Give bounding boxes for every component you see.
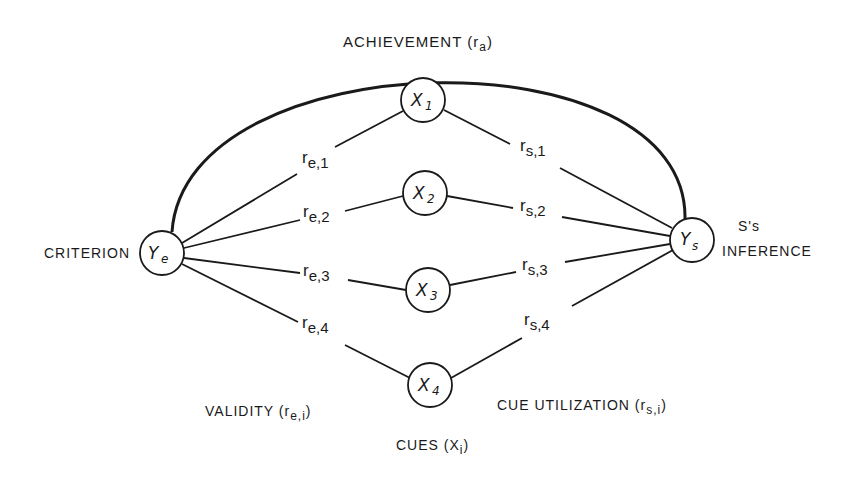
cues-label: CUES (Xi) (396, 437, 469, 457)
achievement-label: ACHIEVEMENT (ra) (343, 33, 493, 54)
validity-edge-label-1: re,1 (302, 148, 329, 171)
utilization-edge-label-3: rs,3 (522, 255, 548, 278)
cue-node-3: X 3 (406, 268, 450, 312)
utilization-edge-label-1: rs,1 (520, 136, 546, 159)
edge-sub: s,3 (528, 261, 548, 278)
edge-sub: e,4 (308, 319, 329, 336)
inference-label-2: INFERENCE (722, 243, 812, 259)
achievement-close: ) (487, 33, 493, 50)
lens-model-diagram: Y e Y s X 1 X 2 X 3 X 4 (0, 0, 856, 480)
validity-sub: e,i (290, 409, 306, 423)
cue-node-3-sub: 3 (430, 289, 438, 303)
criterion-label: CRITERION (44, 245, 130, 261)
criterion-node-sub: e (161, 252, 168, 266)
cue-node-3-main: X (415, 280, 428, 300)
cue-node-2-sub: 2 (427, 192, 435, 206)
cue-node-4-main: X (417, 375, 430, 395)
edge-sub: e,1 (308, 154, 329, 171)
cue-node-1-sub: 1 (425, 99, 433, 113)
edge-sub: s,2 (526, 202, 546, 219)
validity-edge-label-4: re,4 (302, 313, 329, 336)
validity-edge-label-2: re,2 (303, 202, 330, 225)
cue-utilization-close: ) (661, 397, 667, 413)
criterion-node: Y e (140, 231, 184, 275)
criterion-node-main: Y (148, 243, 160, 263)
cues-text: CUES (X (396, 437, 460, 453)
utilization-edge-label-4: rs,4 (524, 310, 550, 333)
cue-utilization-text: CUE UTILIZATION (r (497, 397, 646, 413)
validity-text: VALIDITY (r (205, 403, 290, 419)
validity-edge-label-3: re,3 (303, 261, 330, 284)
achievement-text: ACHIEVEMENT (343, 33, 462, 50)
cue-node-2: X 2 (403, 171, 447, 215)
edge-sub: s,4 (530, 316, 550, 333)
validity-close: ) (306, 403, 312, 419)
cue-node-1-main: X (410, 90, 423, 110)
achievement-sub: a (479, 40, 487, 54)
inference-label-1: S's (738, 218, 760, 234)
cue-utilization-label: CUE UTILIZATION (rs,i) (497, 397, 667, 417)
edge-sub: s,1 (526, 142, 546, 159)
edge-sub: e,2 (309, 208, 330, 225)
validity-label: VALIDITY (re,i) (205, 403, 312, 423)
utilization-lines (444, 110, 673, 378)
edge-sub: e,3 (309, 267, 330, 284)
cue-utilization-sub: s,i (646, 403, 661, 417)
cues-close: ) (463, 437, 469, 453)
cue-node-2-main: X (412, 183, 425, 203)
inference-node-sub: s (692, 239, 698, 253)
utilization-edge-label-2: rs,2 (520, 196, 546, 219)
achievement-symbol: (r (467, 33, 479, 50)
cue-node-1: X 1 (401, 78, 445, 122)
inference-node: Y s (670, 218, 714, 262)
inference-node-main: Y (680, 229, 692, 249)
cue-node-4: X 4 (408, 363, 452, 407)
cue-node-4-sub: 4 (432, 384, 440, 398)
